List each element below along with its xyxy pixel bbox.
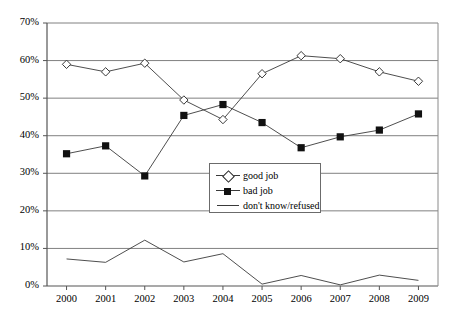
gridlines (43, 23, 438, 286)
filled-square-marker-icon (215, 185, 241, 197)
data-point-open-diamond (297, 51, 305, 59)
data-point-filled-square (180, 112, 187, 119)
legend-label-bad-job: bad job (241, 185, 273, 196)
data-point-filled-square (415, 110, 422, 117)
y-axis-tick-label: 20% (5, 205, 39, 215)
data-point-filled-square (63, 150, 70, 157)
data-point-filled-square (102, 142, 109, 149)
data-point-open-diamond (336, 54, 344, 62)
data-point-filled-square (337, 133, 344, 140)
data-point-open-diamond (62, 60, 70, 68)
series-line (67, 240, 419, 285)
chart-legend: good job bad job don't know/refused (209, 163, 321, 213)
plain-line-marker-icon (215, 200, 241, 212)
legend-label-good-job: good job (241, 170, 278, 181)
y-axis-tick-label: 10% (5, 242, 39, 252)
y-axis-tick-label: 0% (5, 280, 39, 290)
data-point-open-diamond (375, 68, 383, 76)
y-axis-tick-label: 30% (5, 167, 39, 177)
legend-label-dont-know: don't know/refused (241, 200, 320, 211)
data-point-open-diamond (414, 77, 422, 85)
legend-item-bad-job: bad job (215, 183, 320, 198)
data-point-filled-square (141, 172, 148, 179)
series-line (67, 56, 419, 120)
open-diamond-marker-icon (215, 170, 241, 182)
y-axis-tick-label: 40% (5, 130, 39, 140)
data-point-open-diamond (101, 68, 109, 76)
line-chart-plot (0, 0, 451, 323)
x-axis-tick-label: 2009 (395, 293, 441, 304)
y-axis-tick-label: 50% (5, 92, 39, 102)
data-point-filled-square (258, 119, 265, 126)
data-point-filled-square (298, 144, 305, 151)
legend-item-dont-know: don't know/refused (215, 198, 320, 213)
series-good-job (62, 51, 422, 123)
legend-item-good-job: good job (215, 168, 320, 183)
data-point-filled-square (376, 126, 383, 133)
chart-container: 0%10%20%30%40%50%60%70% 2000200120022003… (0, 0, 451, 323)
axes (47, 23, 438, 286)
data-point-filled-square (219, 101, 226, 108)
y-axis-tick-label: 70% (5, 17, 39, 27)
y-axis-tick-label: 60% (5, 55, 39, 65)
series-don-t-know-refused (67, 240, 419, 285)
